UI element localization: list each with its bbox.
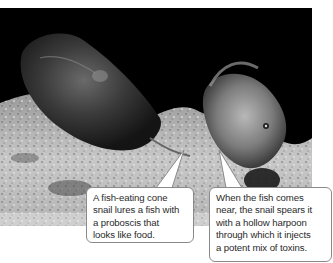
callout-pointer-right (216, 148, 246, 190)
callout-lure-line: looks like food. (93, 229, 188, 241)
callout-harpoon: When the fish comes near, the snail spea… (209, 187, 332, 262)
callout-harpoon-line: through which it injects (216, 229, 326, 241)
callout-lure-line: A fish-eating cone (93, 192, 188, 204)
callout-harpoon-line: near, the snail spears it (216, 204, 326, 216)
callout-lure: A fish-eating cone snail lures a fish wi… (86, 187, 194, 243)
callout-harpoon-line: with a hollow harpoon (216, 217, 326, 229)
callout-lure-line: a proboscis that (93, 217, 188, 229)
callout-pointer-left (150, 148, 190, 190)
callout-harpoon-line: a potent mix of toxins. (216, 242, 326, 254)
callout-harpoon-line: When the fish comes (216, 192, 326, 204)
callout-lure-line: snail lures a fish with (93, 204, 188, 216)
